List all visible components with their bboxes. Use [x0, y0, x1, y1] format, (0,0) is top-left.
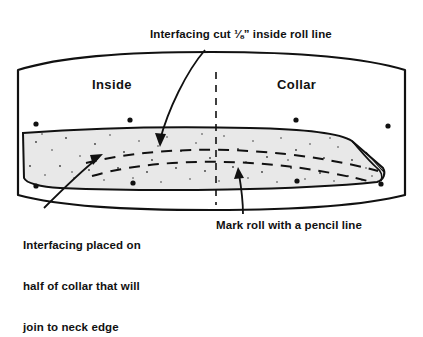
caption-interfacing-placed-line2: half of collar that will: [23, 280, 141, 294]
caption-interfacing-placed-line3: join to neck edge: [23, 321, 141, 335]
caption-interfacing-cut: Interfacing cut ⅛” inside roll line: [150, 28, 332, 42]
label-collar: Collar: [277, 77, 316, 92]
label-inside: Inside: [92, 77, 132, 92]
caption-mark-roll: Mark roll with a pencil line: [216, 219, 362, 233]
caption-interfacing-placed-line1: Interfacing placed on: [23, 239, 141, 253]
caption-interfacing-placed: Interfacing placed on half of collar tha…: [23, 212, 141, 337]
interfacing-region: [23, 127, 384, 190]
